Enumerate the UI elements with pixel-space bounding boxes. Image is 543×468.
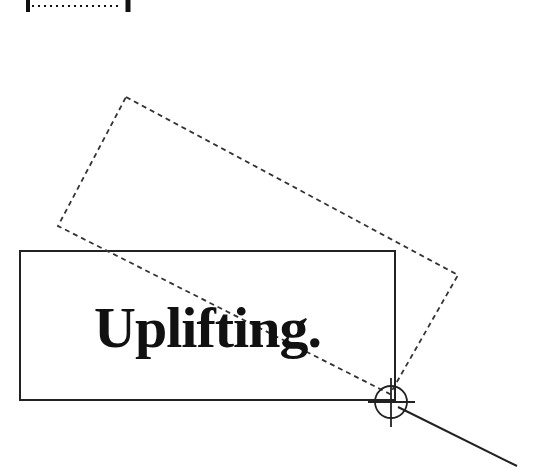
text-box-label: Uplifting. <box>20 251 395 400</box>
ruler-bracket-icon <box>28 0 128 12</box>
pointer-line <box>398 407 517 466</box>
